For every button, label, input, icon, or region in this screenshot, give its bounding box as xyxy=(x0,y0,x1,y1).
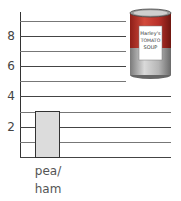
y-tick-8: 8 xyxy=(6,30,16,42)
gridline-7 xyxy=(20,51,126,52)
can-label-line3: SOUP xyxy=(144,44,158,50)
y-axis xyxy=(20,12,21,158)
category-label-pea-ham: pea/ ham xyxy=(30,162,66,198)
y-tick-4: 4 xyxy=(6,90,16,102)
bar-pea-ham xyxy=(35,111,60,158)
category-label-line2: ham xyxy=(30,180,66,198)
y-tick-6: 6 xyxy=(6,60,16,72)
gridline-8 xyxy=(20,36,126,37)
gridline-5 xyxy=(20,81,126,82)
y-tick-2: 2 xyxy=(6,121,16,133)
can-label-line1: Harley's xyxy=(140,30,161,37)
gridline-6 xyxy=(20,66,126,67)
soup-can-icon: Harley's TOMATO SOUP xyxy=(129,8,172,80)
gridline-9 xyxy=(20,21,126,22)
can-label-line2: TOMATO xyxy=(140,38,161,43)
category-label-line1: pea/ xyxy=(30,162,66,180)
gridline-4 xyxy=(20,96,171,97)
